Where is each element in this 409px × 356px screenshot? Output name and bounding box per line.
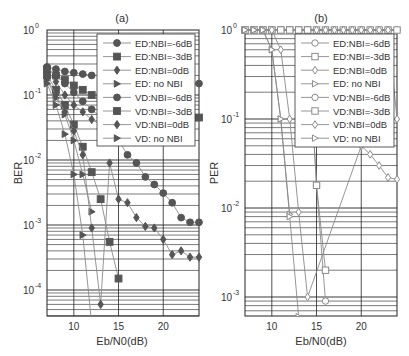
legend-entry-label: VD:NBI=0dB [135, 119, 189, 130]
legend: ED:NBI=-6dBED:NBI=-3dBED:NBI=0dBED: no N… [295, 34, 394, 147]
circle-marker-icon [151, 181, 158, 188]
x-tick-label: 10 [266, 321, 278, 332]
circle-marker-icon [70, 89, 77, 96]
y-tick-label: 10 [221, 203, 233, 214]
panel-b-per-plot: 10152010010-110-210-3ED:NBI=-6dBED:NBI=-… [221, 22, 400, 332]
y-tick-exponent: -2 [233, 200, 239, 207]
legend-entry-label: VD:NBI=-3dB [135, 106, 192, 117]
square-marker-icon [88, 92, 95, 99]
square-marker-icon [106, 238, 113, 245]
diamond-marker-icon [116, 195, 121, 203]
legend-entry-label: VD: no NBI [135, 133, 183, 144]
circle-marker-icon [142, 173, 149, 180]
circle-legend-marker-icon [114, 94, 121, 101]
series-line [245, 30, 290, 214]
circle-marker-icon [196, 80, 203, 87]
square-marker-icon [88, 169, 95, 176]
diamond-marker-icon [71, 101, 76, 109]
square-marker-icon [115, 275, 122, 282]
circle-marker-icon [61, 68, 68, 75]
panel-a-xlabel: Eb/N0(dB) [96, 335, 147, 347]
square-legend-marker-icon [114, 53, 121, 60]
square-marker-icon [313, 182, 319, 188]
circle-marker-icon [88, 106, 95, 113]
square-marker-icon [287, 27, 293, 33]
circle-marker-icon [178, 214, 185, 221]
circle-marker-icon [61, 80, 68, 87]
circle-marker-icon [53, 66, 60, 73]
x-tick-label: 15 [113, 321, 125, 332]
y-tick-label: 10 [221, 292, 233, 303]
figure: 10152010010-110-210-310-4ED:NBI=-6dBED:N… [0, 0, 409, 356]
y-tick-label: 10 [23, 220, 35, 231]
square-marker-icon [304, 27, 310, 33]
panel-b-xlabel: Eb/N0(dB) [295, 335, 346, 347]
square-legend-marker-icon [312, 108, 318, 114]
circle-marker-icon [79, 98, 86, 105]
legend-entry-label: ED: no NBI [135, 78, 183, 89]
diamond-marker-icon [287, 115, 292, 123]
panel-b-ylabel: PER [208, 162, 220, 185]
legend-entry-label: ED:NBI=0dB [135, 65, 189, 76]
circle-marker-icon [124, 151, 131, 158]
y-tick-label: 10 [23, 155, 35, 166]
circle-legend-marker-icon [312, 40, 318, 46]
square-legend-marker-icon [114, 108, 121, 115]
diamond-marker-icon [278, 46, 283, 54]
square-marker-icon [70, 82, 77, 89]
diamond-marker-icon [178, 247, 183, 255]
legend-entry-label: VD: no NBI [333, 133, 381, 144]
x-tick-label: 10 [68, 321, 80, 332]
circle-marker-icon [53, 72, 60, 79]
legend-entry-label: VD:NBI=-6dB [135, 92, 192, 103]
y-tick-label: 10 [221, 25, 233, 36]
legend-entry-label: VD:NBI=-3dB [333, 106, 390, 117]
square-marker-icon [79, 86, 86, 93]
legend-entry-label: ED:NBI=0dB [333, 65, 387, 76]
diamond-marker-icon [296, 208, 301, 216]
circle-marker-icon [70, 69, 77, 76]
circle-legend-marker-icon [312, 94, 318, 100]
y-tick-exponent: 0 [233, 22, 237, 29]
circle-marker-icon [169, 199, 176, 206]
y-tick-exponent: -1 [35, 87, 41, 94]
legend: ED:NBI=-6dBED:NBI=-3dBED:NBI=0dBED: no N… [97, 34, 195, 146]
series-line [47, 84, 92, 324]
legend-entry-label: ED:NBI=-3dB [135, 51, 192, 62]
y-tick-exponent: -4 [35, 282, 41, 289]
square-marker-icon [278, 27, 284, 33]
y-tick-exponent: -2 [35, 152, 41, 159]
panel-a-title: (a) [115, 12, 128, 24]
circle-marker-icon [187, 219, 194, 226]
legend-entry-label: ED: no NBI [333, 78, 381, 89]
circle-marker-icon [196, 219, 203, 226]
circle-marker-icon [44, 65, 51, 72]
y-tick-label: 10 [23, 285, 35, 296]
legend-entry-label: VD:NBI=0dB [333, 119, 387, 130]
circle-marker-icon [79, 71, 86, 78]
panel-a-ylabel: BER [12, 162, 24, 185]
circle-marker-icon [133, 160, 140, 167]
square-marker-icon [97, 196, 104, 203]
y-tick-label: 10 [221, 114, 233, 125]
square-marker-icon [394, 27, 400, 33]
diamond-marker-icon [187, 253, 192, 261]
x-tick-label: 20 [356, 321, 368, 332]
y-tick-exponent: -3 [233, 289, 239, 296]
diamond-marker-icon [196, 253, 201, 261]
legend-entry-label: ED:NBI=-6dB [135, 38, 192, 49]
circle-legend-marker-icon [114, 40, 121, 47]
circle-marker-icon [322, 298, 328, 304]
y-tick-exponent: -3 [35, 217, 41, 224]
diamond-marker-icon [89, 115, 94, 123]
legend-entry-label: ED:NBI=-6dB [333, 38, 390, 49]
diamond-marker-icon [394, 115, 399, 123]
circle-marker-icon [88, 72, 95, 79]
x-tick-label: 20 [158, 321, 170, 332]
diamond-marker-icon [305, 293, 310, 301]
square-marker-icon [322, 267, 328, 273]
y-tick-label: 10 [23, 90, 35, 101]
y-tick-exponent: -1 [233, 111, 239, 118]
y-tick-exponent: 0 [35, 22, 39, 29]
square-legend-marker-icon [312, 53, 318, 59]
